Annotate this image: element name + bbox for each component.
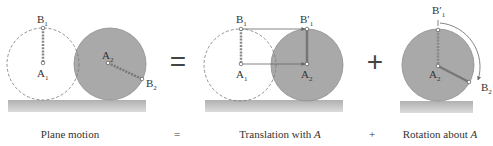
caption-equals: = (174, 128, 180, 140)
point-B2 (467, 80, 471, 84)
point-A1 (41, 61, 45, 65)
label-B1: B1 (236, 13, 247, 28)
ground (205, 100, 343, 112)
label-B1: B1 (37, 13, 48, 28)
label-B2: B2 (481, 81, 492, 96)
point-B1prime (436, 28, 440, 32)
caption-translation-text: Translation with (239, 128, 314, 140)
caption-rotation-var: A (471, 128, 478, 140)
caption-translation: Translation with A (239, 128, 321, 140)
ground (400, 101, 473, 113)
ground (8, 100, 146, 112)
caption-plus: + (369, 128, 375, 140)
plus-operator: + (367, 46, 383, 78)
caption-rotation-text: Rotation about (403, 128, 471, 140)
label-B2: B2 (146, 77, 157, 92)
label-B1prime: B′1 (432, 4, 446, 19)
label-A1: A1 (37, 67, 49, 82)
diagram-canvas: B1 A1 A2 B2 B1 A1 B′1 A2 (0, 0, 493, 146)
plane-motion-figure: B1 A1 A2 B2 B1 A1 B′1 A2 (0, 0, 493, 146)
point-B1 (239, 27, 243, 31)
panel-translation: B1 A1 B′1 A2 (204, 13, 343, 112)
panel-rotation: B′1 A2 B2 (400, 4, 492, 113)
caption-plane-motion: Plane motion (41, 128, 99, 140)
caption-translation-var: A (314, 128, 321, 140)
point-B1prime (305, 27, 309, 31)
body-final-position (74, 28, 146, 100)
caption-rotation: Rotation about A (403, 128, 478, 140)
point-A2 (305, 62, 309, 66)
label-A1: A1 (236, 68, 248, 83)
point-A1 (239, 62, 243, 66)
point-B2 (140, 77, 144, 81)
panel-plane-motion: B1 A1 A2 B2 (7, 13, 157, 112)
equals-operator: = (170, 46, 186, 78)
label-B1prime: B′1 (300, 13, 314, 28)
